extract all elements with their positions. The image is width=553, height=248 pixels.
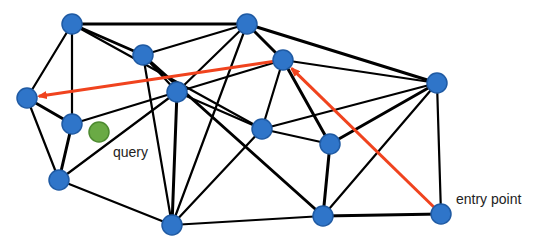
- edge-B-L: [172, 24, 247, 225]
- edge-G-H: [72, 92, 177, 124]
- edge-A-F: [27, 24, 72, 98]
- graph-node-A: [62, 14, 82, 34]
- graph-canvas: [0, 0, 553, 248]
- query-label: query: [113, 144, 148, 160]
- edge-D-E: [283, 60, 437, 83]
- edge-M-N: [323, 214, 441, 216]
- graph-node-K: [49, 170, 69, 190]
- graph-node-F: [17, 88, 37, 108]
- graph-edges: [27, 24, 441, 225]
- edge-E-J: [330, 83, 437, 144]
- graph-nodes: [17, 14, 451, 235]
- graph-node-E: [427, 73, 447, 93]
- query-point: [89, 122, 109, 142]
- search-arrow-D-F: [39, 60, 283, 96]
- edge-K-L: [59, 180, 172, 225]
- graph-diagram: query entry point: [0, 0, 553, 248]
- edge-G-K: [59, 92, 177, 180]
- edge-E-M: [323, 83, 437, 216]
- edge-F-K: [27, 98, 59, 180]
- graph-node-B: [237, 14, 257, 34]
- graph-node-D: [273, 50, 293, 70]
- graph-node-C: [133, 45, 153, 65]
- query-node: [89, 122, 109, 142]
- entry-point-label: entry point: [456, 191, 521, 207]
- edge-J-M: [323, 144, 330, 216]
- edge-E-I: [262, 83, 437, 129]
- edge-L-M: [172, 216, 323, 225]
- edge-E-N: [437, 83, 441, 214]
- graph-node-H: [62, 114, 82, 134]
- edge-D-I: [262, 60, 283, 129]
- graph-node-I: [252, 119, 272, 139]
- graph-node-M: [313, 206, 333, 226]
- edge-I-L: [172, 129, 262, 225]
- edge-G-L: [172, 92, 177, 225]
- graph-node-G: [167, 82, 187, 102]
- graph-node-N: [431, 204, 451, 224]
- graph-node-L: [162, 215, 182, 235]
- graph-node-J: [320, 134, 340, 154]
- edge-D-J: [283, 60, 330, 144]
